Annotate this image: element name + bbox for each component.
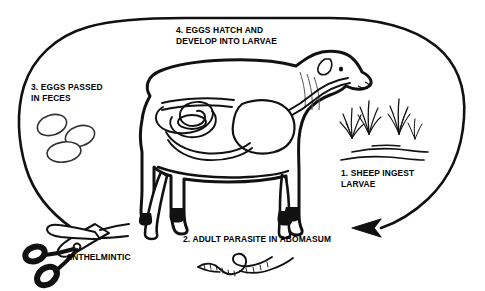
- scissors-handle-upper: [23, 244, 47, 264]
- step-1-label: 1. SHEEP INGEST LARVAE: [341, 168, 414, 189]
- step-2-line-1: 2. ADULT PARASITE IN ABOMASUM: [183, 234, 331, 244]
- parasite-eggs-icon: [35, 111, 98, 164]
- grass-tuft-icon: [340, 99, 428, 160]
- cycle-arrowhead: [352, 219, 381, 237]
- egg-3: [46, 140, 82, 165]
- step-4-label: 4. EGGS HATCH AND DEVELOP INTO LARVAE: [176, 25, 277, 46]
- anthelmintic-text: ANTHELMINTIC: [66, 252, 131, 262]
- scissors-tip-upper: [100, 224, 129, 230]
- egg-1: [35, 111, 70, 139]
- step-4-line-2: DEVELOP INTO LARVAE: [176, 36, 277, 46]
- sheep-hoof-1: [139, 213, 152, 226]
- sheep-illustration: [139, 51, 371, 239]
- anthelmintic-label: ANTHELMINTIC: [66, 252, 131, 263]
- step-1-line-2: LARVAE: [341, 179, 376, 189]
- sheep-hoof-2: [170, 208, 185, 223]
- parasite-life-cycle-diagram: 4. EGGS HATCH AND DEVELOP INTO LARVAE 3.…: [0, 0, 485, 291]
- step-2-label: 2. ADULT PARASITE IN ABOMASUM: [183, 234, 331, 245]
- parasite-worm-icon: [198, 254, 293, 276]
- step-3-line-1: 3. EGGS PASSED: [31, 82, 103, 92]
- sheep-hoof-4: [285, 207, 300, 222]
- abomasum: [233, 100, 295, 153]
- step-1-line-1: 1. SHEEP INGEST: [341, 168, 414, 178]
- step-4-line-1: 4. EGGS HATCH AND: [176, 25, 263, 35]
- step-3-line-2: IN FECES: [31, 93, 71, 103]
- sheep-eye: [339, 66, 343, 71]
- scissors-handle-lower: [33, 263, 60, 289]
- step-3-label: 3. EGGS PASSED IN FECES: [31, 82, 103, 103]
